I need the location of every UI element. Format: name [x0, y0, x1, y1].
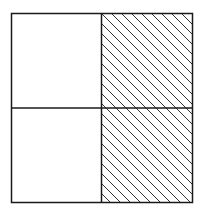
fraction-square-diagram: [0, 0, 205, 212]
